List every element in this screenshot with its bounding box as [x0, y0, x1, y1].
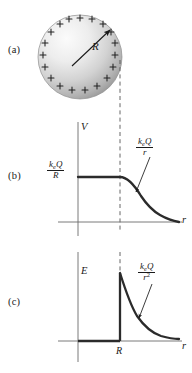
sphere-radius-label: R: [92, 40, 99, 52]
potential-curve: [78, 177, 179, 222]
formula-denominator: r2: [138, 273, 155, 283]
formula-numerator: keQ: [136, 137, 153, 148]
panel-label-b: (b): [8, 170, 21, 181]
field-curve-formula: keQ r2: [138, 262, 155, 283]
v-axis-label: V: [81, 121, 87, 132]
e-axis-label: E: [81, 265, 87, 276]
potential-surface-value-formula: keQ R: [47, 160, 64, 181]
charged-sphere: [38, 15, 122, 99]
formula-denominator: r: [136, 148, 153, 158]
formula-numerator: keQ: [47, 160, 64, 171]
figure-canvas: [0, 0, 192, 373]
r-axis-label-c: r: [182, 340, 186, 351]
field-annotation-arrow: [139, 284, 152, 318]
panel-label-a: (a): [8, 44, 20, 55]
r-tick-label-R: R: [116, 345, 122, 356]
r-axis-label-b: r: [182, 214, 186, 225]
panel-a-sphere-group: [38, 15, 122, 99]
field-curve: [120, 273, 179, 339]
formula-denominator: R: [47, 171, 64, 181]
potential-annotation-arrow: [136, 157, 150, 192]
panel-label-c: (c): [8, 296, 20, 307]
physics-figure: (a) (b) (c) R V r E r R keQ R keQ r keQ …: [0, 0, 192, 373]
potential-curve-formula: keQ r: [136, 137, 153, 158]
